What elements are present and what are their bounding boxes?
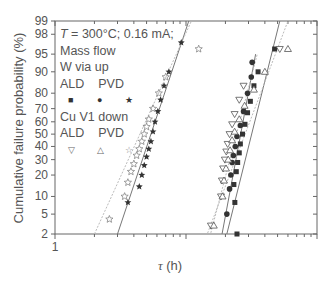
legend-group1-subtitle: W via up [60, 59, 174, 76]
svg-text:95: 95 [35, 47, 49, 61]
legend-group2-markers: ▽ △ ☆ [60, 142, 174, 159]
legend-group1-columns: ALD PVD [60, 76, 174, 93]
temperature-symbol: T [60, 27, 68, 41]
svg-text:2: 2 [41, 227, 48, 241]
legend-group2-title: Cu V1 down [60, 109, 174, 126]
y-axis-label: Cumulative failure probability (%) [11, 33, 26, 224]
x-axis-symbol: τ [158, 258, 163, 273]
svg-text:10: 10 [35, 189, 49, 203]
svg-text:80: 80 [35, 86, 49, 100]
legend-group2-columns: ALD PVD [60, 125, 174, 142]
svg-text:40: 40 [35, 139, 49, 153]
svg-text:5: 5 [41, 207, 48, 221]
svg-text:60: 60 [35, 115, 49, 129]
open-triangle-down-icon: ▽ [68, 142, 75, 159]
legend-group1-markers: ■ ● ★ [60, 92, 174, 109]
svg-text:98: 98 [35, 27, 49, 41]
condition-text: = 300°C; 0.16 mA; [68, 27, 174, 41]
svg-text:90: 90 [35, 65, 49, 79]
svg-text:30: 30 [35, 153, 49, 167]
svg-text:20: 20 [35, 168, 49, 182]
filled-square-icon: ■ [68, 92, 73, 109]
x-axis-unit: (h) [166, 258, 182, 273]
legend-group1-title: Mass flow [60, 43, 174, 60]
svg-text:50: 50 [35, 127, 49, 141]
legend-condition: T = 300°C; 0.16 mA; [60, 26, 174, 43]
svg-text:70: 70 [35, 102, 49, 116]
svg-text:1: 1 [52, 240, 59, 254]
x-axis-label: τ (h) [158, 258, 182, 274]
open-triangle-up-icon: △ [97, 142, 104, 159]
filled-star-icon: ★ [125, 92, 133, 109]
open-star-icon: ☆ [125, 142, 133, 159]
svg-text:99: 99 [35, 14, 49, 28]
legend: T = 300°C; 0.16 mA; Mass flow W via up A… [60, 26, 174, 158]
filled-circle-icon: ● [97, 92, 102, 109]
